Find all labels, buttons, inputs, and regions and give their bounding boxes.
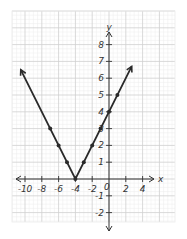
y-tick-label: 1 <box>98 157 104 167</box>
x-tick-label: 2 <box>123 184 129 194</box>
x-tick-label: -6 <box>54 184 63 194</box>
function-graph <box>21 66 132 181</box>
data-point <box>90 143 94 147</box>
y-axis-label: y <box>106 22 113 32</box>
data-point <box>65 160 69 164</box>
data-point <box>48 127 52 131</box>
y-tick-label: 7 <box>98 56 104 66</box>
data-point <box>99 127 103 131</box>
x-tick-label: -10 <box>18 184 33 194</box>
y-tick-label: 6 <box>98 73 104 83</box>
y-tick-label: 8 <box>98 40 104 50</box>
x-axis-label: x <box>157 174 164 184</box>
coordinate-plane-chart: xy -10-8-6-4-2024-2-112345678 <box>0 0 187 239</box>
x-tick-label: 4 <box>140 184 146 194</box>
x-tick-label: 0 <box>104 182 110 192</box>
y-tick-label: -1 <box>95 191 104 201</box>
y-tick-label: -2 <box>95 208 104 218</box>
data-point <box>115 93 119 97</box>
axes: xy <box>16 22 164 231</box>
y-tick-label: 4 <box>98 107 104 117</box>
y-tick-label: 5 <box>98 90 104 100</box>
data-point <box>73 177 77 181</box>
data-point <box>82 160 86 164</box>
x-tick-label: -4 <box>71 184 80 194</box>
data-point <box>57 143 61 147</box>
data-point <box>107 110 111 114</box>
x-tick-label: -8 <box>37 184 46 194</box>
y-tick-label: 2 <box>98 140 104 150</box>
